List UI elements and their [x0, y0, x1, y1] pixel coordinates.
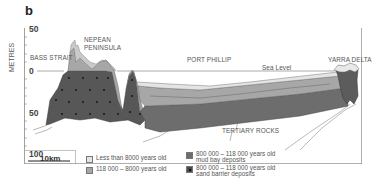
legend-swatch-sand-barrier [186, 166, 193, 173]
legend-swatch-young [86, 156, 93, 163]
y-axis-label: METRES [8, 43, 15, 72]
label-sea-level: Sea Level [262, 64, 291, 71]
legend-item-sand-barrier: 800 000 – 118 000 years oldsand barrier … [186, 165, 275, 178]
legend-swatch-mid [86, 167, 93, 174]
sand-barrier-deposits [46, 71, 145, 125]
legend-label-sand-barrier: 800 000 – 118 000 years oldsand barrier … [196, 165, 275, 178]
label-bass-strait: BASS STRAIT [30, 54, 73, 61]
tick-50-below: 50 [29, 108, 38, 118]
legend-item-mud-bay: 800 000 – 118 000 years oldmud bay depos… [186, 151, 275, 164]
legend-label-mid: 118 000 – 8000 years old [96, 166, 167, 172]
tick-0: 0 [29, 66, 34, 76]
legend-item-mid: 118 000 – 8000 years old [86, 166, 167, 174]
legend-label-mud-bay: 800 000 – 118 000 years oldmud bay depos… [196, 151, 275, 164]
legend-item-young: Less than 8000 years old [86, 155, 166, 163]
label-port-phillip: PORT PHILLIP [187, 56, 231, 63]
label-peninsula: PENINSULA [84, 44, 121, 51]
tick-50-above: 50 [29, 24, 38, 34]
yarra-delta-young [334, 63, 359, 72]
scale-bar-label: 10km [40, 154, 60, 163]
label-tertiary-rocks: TERTIARY ROCKS [222, 127, 279, 134]
panel-label: b [25, 3, 33, 18]
label-yarra-delta: YARRA DELTA [328, 56, 372, 63]
label-nepean: NEPEAN [84, 36, 111, 43]
legend-swatch-mud-bay [186, 152, 193, 159]
legend-label-young: Less than 8000 years old [96, 155, 166, 161]
